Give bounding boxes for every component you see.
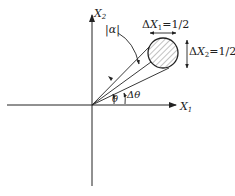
diagram: X2 X1 |α| θ Δθ ΔX1=1/2 ΔX2=1/2	[0, 0, 235, 196]
x2-axis-label: X2	[93, 7, 107, 21]
alpha-arrow	[118, 33, 139, 64]
theta-label: θ	[112, 93, 118, 104]
delta-theta-label: Δθ	[126, 89, 140, 100]
cone-center-line	[92, 62, 151, 105]
diagram-canvas: X2 X1 |α| θ Δθ ΔX1=1/2 ΔX2=1/2	[0, 0, 235, 196]
delta-x2-label: ΔX2=1/2	[189, 45, 235, 59]
alpha-label: |α|	[105, 23, 120, 37]
x1-axis-label: X1	[179, 100, 192, 114]
delta-theta-arc	[124, 93, 125, 104]
cone-upper-line	[92, 46, 150, 105]
tick-mark-icon	[108, 76, 113, 81]
delta-x1-label: ΔX1=1/2	[142, 18, 189, 32]
uncertainty-circle	[148, 38, 178, 68]
